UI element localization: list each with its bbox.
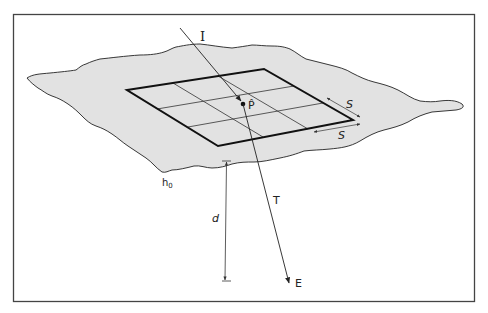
spacing-label-lower: S [338, 129, 345, 142]
incident-label: I [200, 29, 205, 44]
surface-region [27, 44, 463, 172]
diagram-canvas: S S I P̂ T E d h0 [0, 0, 488, 313]
transmitted-label: T [272, 194, 280, 207]
spacing-label-upper: S [346, 98, 353, 111]
surface-label: h0 [162, 177, 173, 190]
point-p-label: P̂ [248, 99, 255, 112]
depth-dimension [222, 161, 231, 281]
surface-label-subscript: 0 [168, 182, 172, 190]
end-label: E [295, 277, 302, 290]
depth-label: d [212, 212, 220, 225]
